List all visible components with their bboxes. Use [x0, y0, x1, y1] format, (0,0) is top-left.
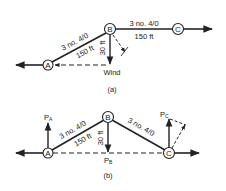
- node-label-b: B: [107, 25, 112, 34]
- node-label-c: C: [175, 25, 181, 34]
- wind-direction-arrow-a: [113, 35, 125, 52]
- caption-a: (a): [107, 85, 117, 94]
- span-bc-length-label: 150 ft: [135, 32, 155, 41]
- node-label-b: B: [105, 113, 110, 122]
- span-bc-conductor-label: 3 no. 4/0: [129, 19, 158, 28]
- wind-label: Wind: [103, 68, 120, 77]
- pole-height-label: 30 ft: [96, 130, 105, 146]
- node-label-a: A: [45, 149, 51, 158]
- span-ab-length-label: 150 ft: [74, 43, 96, 60]
- caption-b: (b): [103, 171, 113, 180]
- load-label-pa: PA: [44, 113, 53, 122]
- diagram-canvas: A B C 3 no. 4/0 150 ft 3 no. 4/0 150 ft …: [0, 0, 226, 191]
- node-label-c: C: [166, 149, 172, 158]
- span-bc-conductor-label: 3 no. 4/0: [126, 116, 156, 138]
- span-ab-length-label: 150 ft: [72, 131, 94, 149]
- load-label-pb: PB: [104, 156, 113, 165]
- pole-height-label: 30 ft: [98, 40, 107, 56]
- pc-resultant-arrow: [172, 125, 185, 148]
- pc-component-dashed: [170, 119, 186, 125]
- load-label-pc: PC: [160, 110, 169, 119]
- guy-wire-diagram: A B C 3 no. 4/0 150 ft 3 no. 4/0 150 ft …: [0, 0, 226, 191]
- node-label-a: A: [45, 61, 51, 70]
